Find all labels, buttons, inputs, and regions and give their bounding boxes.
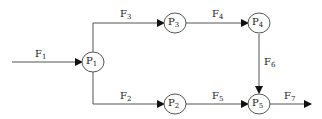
edge-f3 <box>93 23 164 52</box>
node-label-p5: P5 <box>252 98 263 110</box>
flow-label-f7: F7 <box>284 91 295 103</box>
flow-label-f1: F1 <box>35 49 46 61</box>
node-label-p4: P4 <box>252 17 263 29</box>
flow-label-f3: F3 <box>120 9 131 21</box>
node-label-p3: P3 <box>168 17 179 29</box>
flow-label-f6: F6 <box>264 57 275 69</box>
flow-label-f2: F2 <box>120 91 131 103</box>
node-label-p2: P2 <box>168 98 179 110</box>
flow-label-f5: F5 <box>212 91 223 103</box>
node-label-p1: P1 <box>86 56 97 68</box>
flow-label-f4: F4 <box>212 9 223 21</box>
